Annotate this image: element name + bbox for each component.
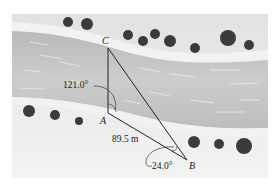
angle-b-label: 24.0°	[152, 161, 173, 171]
river-triangle-diagram: C A B 121.0° 89.5 m 24.0°	[0, 0, 275, 187]
side-ab-label: 89.5 m	[112, 134, 139, 144]
point-c-label: C	[102, 35, 109, 46]
angle-a-label: 121.0°	[63, 80, 88, 90]
point-a-label: A	[99, 115, 107, 126]
point-b-label: B	[189, 160, 195, 171]
